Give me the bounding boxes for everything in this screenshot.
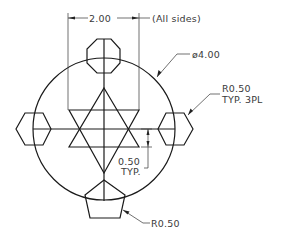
pentagon-radius-label: R0.50 <box>151 218 180 229</box>
arrow-left-icon <box>68 17 75 20</box>
technical-drawing: 2.00 (All sides) ø4.00 R0.50 TYP. 3PL 0.… <box>0 0 281 244</box>
arrow-down-icon <box>147 141 150 147</box>
radius-typ-note: TYP. 3PL <box>221 94 263 105</box>
radius-typ-leader <box>188 94 220 115</box>
diameter-label: ø4.00 <box>192 49 220 60</box>
arrow-icon <box>188 109 193 116</box>
radius-typ-value: R0.50 <box>222 83 251 94</box>
arrow-up-icon <box>147 129 150 135</box>
offset-dimension <box>141 129 152 168</box>
width-dim-note: (All sides) <box>152 13 201 24</box>
arrow-icon <box>157 70 162 77</box>
width-dim-value: 2.00 <box>89 13 111 24</box>
diameter-leader <box>157 54 190 77</box>
offset-note: TYP. <box>120 166 141 177</box>
arrow-right-icon <box>132 17 139 20</box>
pentagon-radius-leader <box>123 210 150 223</box>
